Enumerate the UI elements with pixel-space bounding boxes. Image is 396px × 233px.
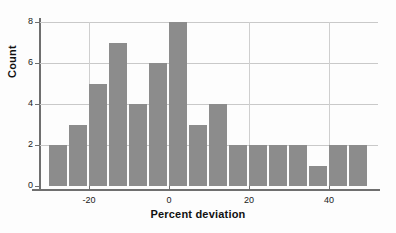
y-axis-label-wrapper: Count [14, 0, 34, 233]
bar-bin-1 [69, 125, 87, 187]
y-tick-label-6: 6 [7, 58, 33, 67]
y-tick-mark-0 [35, 186, 40, 187]
plot-area [40, 18, 378, 186]
gridline-y-8 [40, 22, 378, 23]
gridline-y-6 [40, 63, 378, 64]
x-tick-label-40: 40 [309, 195, 349, 205]
bar-bin-13 [309, 166, 327, 187]
bar-bin-11 [269, 145, 287, 186]
x-tick-label--20: -20 [69, 195, 109, 205]
bar-bin-12 [289, 145, 307, 186]
x-tick-mark-40 [329, 186, 330, 191]
bar-bin-2 [89, 84, 107, 187]
bar-bin-9 [229, 145, 247, 186]
x-tick-mark-0 [169, 186, 170, 191]
bar-bin-14 [329, 145, 347, 186]
bar-bin-4 [129, 104, 147, 186]
y-tick-label-4: 4 [7, 99, 33, 108]
bar-bin-0 [49, 145, 67, 186]
bar-bin-5 [149, 63, 167, 186]
y-tick-label-8: 8 [7, 17, 33, 26]
x-tick-label-20: 20 [229, 195, 269, 205]
bar-bin-8 [209, 104, 227, 186]
bar-bin-3 [109, 43, 127, 187]
y-tick-label-2: 2 [7, 140, 33, 149]
x-tick-mark--20 [89, 186, 90, 191]
bar-bin-10 [249, 145, 267, 186]
bar-bin-7 [189, 125, 207, 187]
x-axis-label: Percent deviation [0, 208, 396, 220]
x-tick-label-0: 0 [149, 195, 189, 205]
bar-bin-6 [169, 22, 187, 186]
x-tick-mark-20 [249, 186, 250, 191]
bar-bin-15 [349, 145, 367, 186]
y-tick-label-0: 0 [7, 181, 33, 190]
histogram-chart: Count 02468 -2002040 Percent deviation [0, 0, 396, 233]
x-axis-line [32, 189, 380, 191]
